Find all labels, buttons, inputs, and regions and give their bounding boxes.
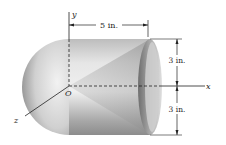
arrowhead-right xyxy=(143,24,148,27)
origin-label: O xyxy=(65,89,72,98)
x-axis-label: x xyxy=(206,82,211,91)
cone-base-ellipse xyxy=(145,42,159,132)
y-axis-label: y xyxy=(71,10,77,19)
composite-body-diagram: 5 in. 3 in. 3 in. y x z O xyxy=(0,0,226,145)
z-axis-label: z xyxy=(13,116,19,125)
dimension-label-length: 5 in. xyxy=(100,21,118,30)
dimension-label-lower-radius: 3 in. xyxy=(169,105,186,114)
arrowhead-left xyxy=(69,24,74,27)
hemisphere-shape xyxy=(22,39,69,135)
dimension-label-upper-radius: 3 in. xyxy=(169,56,186,65)
